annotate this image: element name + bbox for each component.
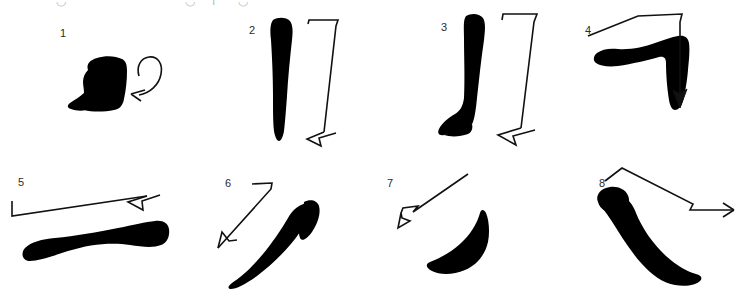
stroke-cell-6: 6 <box>200 160 380 300</box>
vertical-stroke-with-foot <box>438 14 485 135</box>
diagonal-up-left-arrow-line <box>401 174 468 213</box>
hook-down-arrow-head <box>307 132 336 146</box>
stroke-3-drawing <box>380 0 580 170</box>
rightward-arrow-head <box>128 195 160 210</box>
stroke-cell-7: 7 <box>380 160 560 300</box>
stroke-4-drawing <box>560 0 748 150</box>
stroke-diagram-sheet: ◡ ◡ ı ◡ 1 2 3 4 <box>0 0 748 300</box>
stroke-cell-5: 5 <box>0 160 200 300</box>
curved-loop-arrow-head <box>131 90 145 101</box>
horizontal-tapered-stroke <box>23 221 170 261</box>
stroke-7-drawing <box>380 160 560 300</box>
stroke-1-drawing <box>0 0 190 150</box>
dot-blob-tail <box>68 93 86 111</box>
hook-down-arrow-head <box>498 128 535 145</box>
stroke-cell-2: 2 <box>190 0 380 165</box>
stroke-5-drawing <box>0 160 200 300</box>
curved-loop-arrow-left <box>138 57 161 95</box>
vertical-stroke <box>270 18 292 141</box>
stroke-8-drawing <box>560 160 748 300</box>
hook-down-arrow-line <box>308 20 338 132</box>
diagonal-up-left-arrow-head <box>398 213 410 228</box>
stroke-2-drawing <box>190 0 380 170</box>
curved-down-left-stroke <box>228 203 311 289</box>
diagonal-falling-stroke-head <box>597 187 629 213</box>
short-curved-sweep-stroke <box>427 210 489 274</box>
stroke-cell-8: 8 <box>560 160 748 300</box>
rightward-arrow-line <box>12 196 147 216</box>
stroke-cell-3: 3 <box>380 0 580 165</box>
horizontal-turn-down-stroke <box>594 36 690 110</box>
stroke-cell-4: 4 <box>560 0 748 150</box>
stroke-cell-1: 1 <box>0 0 190 150</box>
stroke-6-drawing <box>200 160 380 300</box>
hook-down-arrow-line <box>502 14 537 128</box>
